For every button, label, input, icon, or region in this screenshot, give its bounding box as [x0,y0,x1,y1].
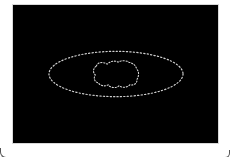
image-panel [12,4,219,144]
corner-mark-right [225,150,230,157]
contour-image [13,5,218,143]
outer-ellipse-contour [49,51,183,96]
corner-mark-left [0,148,7,157]
inner-blob-contour [94,61,139,88]
